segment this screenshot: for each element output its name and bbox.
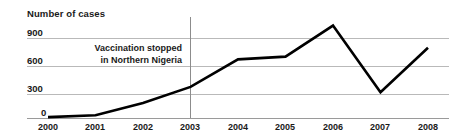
chart-container: Number of cases 900 600 300 0 2000 2001 … [0,0,458,137]
plot-area: 900 600 300 0 2000 2001 2002 2003 2004 2… [0,0,458,137]
series-polyline [48,26,428,118]
series-line-chart [0,0,458,137]
